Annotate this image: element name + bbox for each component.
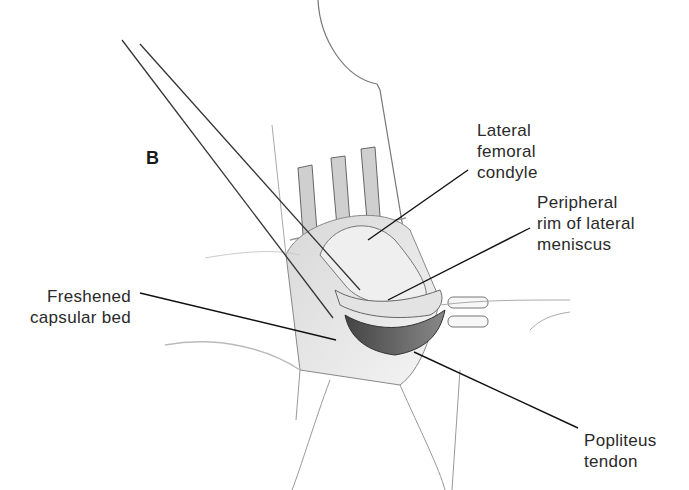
leader-line-condyle — [368, 170, 468, 240]
label-line: Peripheral — [537, 192, 635, 213]
label-line: meniscus — [537, 234, 635, 255]
label-popliteus-tendon: Popliteus tendon — [584, 430, 657, 472]
label-freshened-capsular-bed: Freshened capsular bed — [0, 286, 131, 328]
label-peripheral-rim: Peripheral rim of lateral meniscus — [537, 192, 635, 255]
label-line: condyle — [477, 162, 538, 183]
label-line: capsular bed — [0, 307, 131, 328]
leader-line-popliteus — [414, 352, 578, 428]
label-lateral-femoral-condyle: Lateral femoral condyle — [477, 120, 538, 183]
label-line: Popliteus — [584, 430, 657, 451]
label-line: rim of lateral — [537, 213, 635, 234]
label-line: femoral — [477, 141, 538, 162]
label-line: tendon — [584, 451, 657, 472]
label-line: Lateral — [477, 120, 538, 141]
label-line: Freshened — [0, 286, 131, 307]
panel-letter: B — [146, 148, 159, 169]
